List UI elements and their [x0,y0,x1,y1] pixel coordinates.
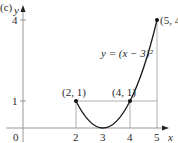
x-tick-5: 5 [154,131,160,143]
guide-lines [76,20,157,128]
point-2-1 [74,99,78,103]
function-label: y = (x − 3)² [100,47,153,60]
x-axis-arrow-icon [162,126,169,131]
point-5-4 [155,18,159,22]
parabola-chart: (c) y x 4 1 0 2 3 4 5 (2, 1) (4, 1) (5, … [0,0,178,143]
x-tick-2: 2 [73,131,79,143]
y-axis-arrow-icon [21,5,26,12]
axes [6,10,166,142]
x-tick-4: 4 [127,131,133,143]
point-label-4-1: (4, 1) [112,86,136,99]
parabola-curve [76,20,157,128]
x-tick-3: 3 [100,131,106,143]
point-4-1 [128,99,132,103]
point-label-2-1: (2, 1) [62,86,86,99]
origin-label: 0 [13,131,19,143]
panel-label: (c) [0,1,13,14]
x-axis-label: x [167,131,173,143]
y-tick-4: 4 [12,14,18,26]
y-tick-1: 1 [12,95,18,107]
point-label-5-4: (5, 4) [160,14,178,27]
